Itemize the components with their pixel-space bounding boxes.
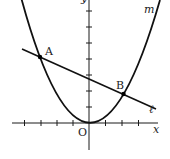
point-b-marker [121,92,125,96]
point-a-label: A [44,45,54,58]
x-axis-label: x [153,123,160,136]
parabola-m [22,0,161,123]
point-a-marker [38,55,42,59]
parabola-line-diagram: A B ℓ m O x y [0,0,170,159]
parabola-m-label: m [144,3,154,16]
origin-label: O [78,126,87,139]
y-axis-label: y [80,0,88,5]
point-b-label: B [116,79,124,92]
line-l-label: ℓ [149,103,154,116]
